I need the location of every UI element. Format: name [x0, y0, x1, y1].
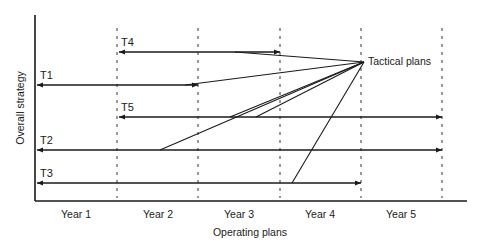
y-axis-title: Overall strategy [14, 70, 26, 144]
year-5-label: Year 5 [386, 208, 416, 220]
year-dividers [117, 28, 442, 198]
tactical-plans-label: Tactical plans [368, 55, 431, 67]
t4-label: T4 [121, 36, 134, 48]
year-2-label: Year 2 [143, 208, 173, 220]
strategy-tactical-plans-diagram: T4 T1 T5 T2 T3 Tactical plans Year 1 Yea… [0, 0, 484, 245]
x-axis-title: Operating plans [213, 226, 287, 238]
t1-label: T1 [40, 69, 53, 81]
t4-to-tactical-line [235, 52, 364, 62]
t5-label: T5 [121, 101, 134, 113]
year-3-label: Year 3 [224, 208, 254, 220]
t3-label: T3 [40, 167, 53, 179]
year-4-label: Year 4 [305, 208, 335, 220]
t2-label: T2 [40, 134, 53, 146]
tactic-spans [37, 52, 442, 183]
year-1-label: Year 1 [61, 208, 91, 220]
